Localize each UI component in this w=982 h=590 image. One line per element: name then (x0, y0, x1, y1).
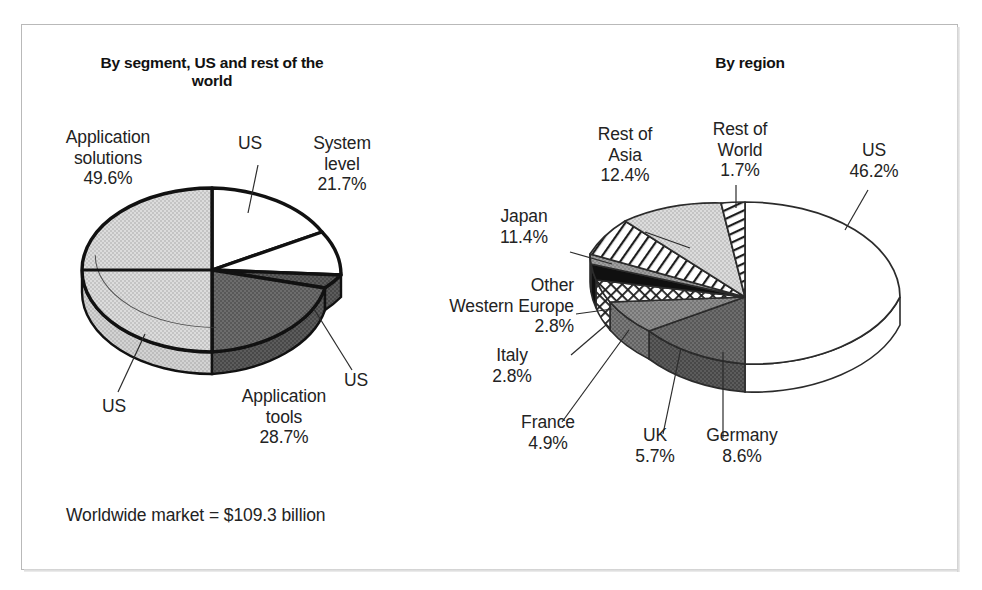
label-us-application-solutions: US (86, 396, 142, 417)
label-us-system-level: US (222, 133, 278, 154)
pie-right-by-region (562, 185, 900, 438)
figure-canvas: By segment, US and rest of the world By … (0, 0, 982, 590)
label-japan: Japan 11.4% (472, 206, 576, 247)
label-system-level: System level 21.7% (290, 133, 394, 195)
label-us-region: US 46.2% (826, 140, 922, 181)
leader-us-application-tools (314, 309, 352, 370)
label-application-solutions: Application solutions 49.6% (28, 127, 188, 189)
label-rest-of-world: Rest of World 1.7% (692, 119, 788, 181)
pie-left-by-segment (82, 165, 352, 392)
label-france: France 4.9% (498, 412, 598, 453)
label-application-tools: Application tools 28.7% (210, 386, 358, 448)
leader-france (562, 330, 629, 422)
chart-title-by-region: By region (640, 54, 860, 72)
chart-title-by-segment: By segment, US and rest of the world (92, 54, 332, 90)
label-rest-of-asia: Rest of Asia 12.4% (568, 124, 682, 186)
label-germany: Germany 8.6% (668, 425, 816, 466)
label-other-western-europe: Other Western Europe 2.8% (398, 275, 574, 337)
footnote-worldwide-market: Worldwide market = $109.3 billion (66, 505, 326, 526)
leader-italy (571, 325, 606, 355)
leader-us-region (845, 190, 868, 230)
label-italy: Italy 2.8% (466, 345, 558, 386)
